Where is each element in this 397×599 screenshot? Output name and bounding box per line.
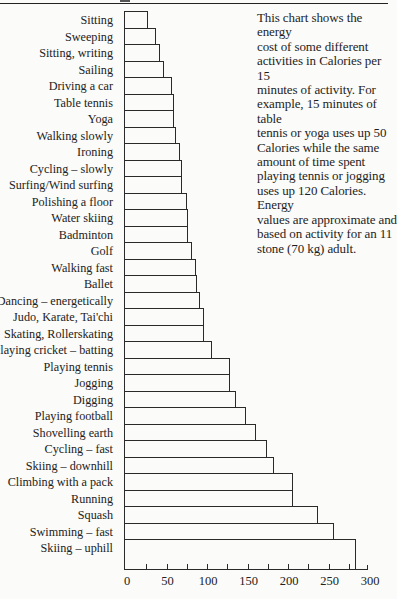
x-axis-tick [187,564,188,569]
bar [124,193,187,211]
category-label: Sitting [80,12,113,28]
x-axis-line [124,569,368,570]
bar [124,176,182,194]
category-label: Water skiing [51,210,113,226]
bar [124,292,200,310]
category-label: Ballet [84,276,113,292]
category-label: Running [71,491,113,507]
bar [124,44,160,62]
bar [124,358,230,376]
bar [124,94,174,112]
bar [124,110,174,128]
category-label: Sailing [78,62,113,78]
category-label: Judo, Karate, Tai'chi [13,309,113,325]
bar [124,259,196,277]
category-label: Digging [73,392,113,408]
x-tick-label: 0 [124,574,130,589]
x-axis-tick [146,564,147,569]
bar [124,61,164,79]
category-label: Table tennis [54,95,113,111]
bar [124,341,212,359]
bar [124,457,274,475]
bar [124,308,204,326]
bar [124,160,182,178]
category-label: Cycling – slowly [30,161,113,177]
category-label: Skating, Rollerskating [4,326,113,342]
x-axis-tick [207,564,208,569]
category-label: Squash [78,507,113,523]
category-label: Climbing with a pack [8,474,113,490]
category-label: Surfing/Wind surfing [9,177,113,193]
x-axis-tick [308,564,309,569]
x-axis-tick [329,564,330,569]
category-label: Playing football [35,408,113,424]
bar [124,407,246,425]
category-label: Shovelling earth [33,425,113,441]
x-tick-label: 100 [199,574,218,589]
category-label: Sitting, writing [39,45,113,61]
category-label: Playing tennis [44,359,113,375]
bar [124,226,188,244]
category-label: Swimming – fast [30,524,113,540]
category-label: Polishing a floor [32,194,113,210]
category-label: Playing cricket – batting [0,342,113,358]
x-axis-tick [227,564,228,569]
category-label: Walking fast [51,260,113,276]
bar [124,143,180,161]
bar [124,77,172,95]
bar [124,209,188,227]
bar [124,28,156,46]
category-label: Skiing – downhill [26,458,113,474]
x-axis-tick [167,564,168,569]
x-axis-tick [288,564,289,569]
bar [124,539,356,570]
x-axis-end-tick [367,565,368,570]
bar [124,391,236,409]
bar [124,523,334,541]
x-tick-label: 250 [320,574,339,589]
category-label: Yoga [88,111,113,127]
category-label: Cycling – fast [45,441,113,457]
bar [124,424,256,442]
bar [124,11,148,29]
x-axis-tick [248,564,249,569]
category-label: Dancing – energetically [0,293,113,309]
category-label: Walking slowly [36,128,113,144]
bar [124,506,318,524]
category-label: Ironing [77,144,113,160]
x-tick-label: 300 [361,574,380,589]
bar [124,242,192,260]
x-tick-label: 150 [239,574,258,589]
category-label: Sweeping [65,29,113,45]
category-label: Golf [91,243,113,259]
bar [124,374,230,392]
bar [124,473,293,491]
category-label: Skiing – uphill [41,540,113,556]
bar [124,325,204,343]
category-label: Driving a car [49,78,113,94]
x-axis-tick [349,564,350,569]
bar [124,440,267,458]
bar [124,275,197,293]
bar [124,490,293,508]
x-tick-label: 200 [280,574,299,589]
bar [124,127,176,145]
x-tick-label: 50 [161,574,174,589]
category-label: Badminton [59,227,113,243]
category-label: Jogging [74,375,113,391]
x-axis-tick [268,564,269,569]
